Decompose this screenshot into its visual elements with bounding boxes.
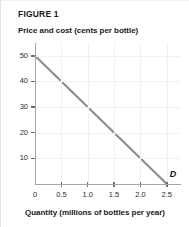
demand-curve-line [35, 56, 167, 184]
gridline-horizontal [35, 158, 180, 159]
figure-container: FIGURE 1 Price and cost (cents per bottl… [0, 0, 189, 227]
x-axis-tick-label: 2.0 [129, 190, 151, 199]
demand-curve-label: D [170, 169, 177, 179]
gridline-vertical [61, 43, 62, 184]
y-axis-tick-label: 50 [12, 51, 28, 60]
x-axis-title: Quantity (millions of bottles per year) [1, 208, 189, 217]
y-axis-line [35, 43, 37, 185]
x-axis-tick-label: 1.0 [77, 190, 99, 199]
x-axis-tick-label: 0.5 [50, 190, 72, 199]
gridline-horizontal [35, 81, 180, 82]
gridline-vertical [88, 43, 89, 184]
gridline-horizontal [35, 133, 180, 134]
y-axis-tick-label: 30 [12, 102, 28, 111]
x-axis-tick-label: 2.5 [156, 190, 178, 199]
plot-area: D 504030201000.51.01.52.02.5 [1, 1, 189, 227]
gridline-vertical [167, 43, 168, 184]
y-axis-tick-label: 40 [12, 76, 28, 85]
x-axis-line [35, 184, 181, 186]
gridline-vertical [140, 43, 141, 184]
gridline-horizontal [35, 107, 180, 108]
gridline-horizontal [35, 56, 180, 57]
y-axis-tick-label: 20 [12, 128, 28, 137]
x-axis-tick-label: 1.5 [103, 190, 125, 199]
y-axis-tick-label: 10 [12, 153, 28, 162]
x-axis-tick-label: 0 [24, 190, 46, 199]
gridline-vertical [114, 43, 115, 184]
